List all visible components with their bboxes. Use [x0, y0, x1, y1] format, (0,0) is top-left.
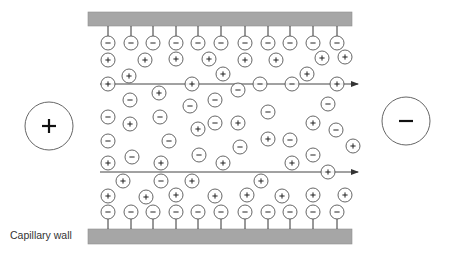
negative-ion: [183, 99, 197, 113]
positive-ion: [101, 156, 115, 170]
negative-ion: [146, 36, 160, 50]
negative-ion: [124, 205, 138, 219]
positive-ion: [306, 116, 320, 130]
negative-ion: [306, 205, 320, 219]
negative-ion: [283, 133, 297, 147]
negative-ion: [253, 77, 267, 91]
negative-ion: [261, 105, 275, 119]
negative-ion: [238, 205, 252, 219]
positive-ion: [306, 188, 320, 202]
positive-ion: [238, 53, 252, 67]
negative-ion: [306, 36, 320, 50]
positive-ion: [169, 52, 183, 66]
positive-ion: [139, 190, 153, 204]
positive-ion: [338, 50, 352, 64]
negative-ion: [214, 36, 228, 50]
negative-ion: [330, 205, 344, 219]
positive-ion: [191, 122, 205, 136]
positive-ion: [185, 77, 199, 91]
top-wall: [88, 12, 352, 26]
positive-ion: [101, 189, 115, 203]
negative-ion: [208, 116, 222, 130]
negative-ion: [238, 36, 252, 50]
negative-ion: [146, 205, 160, 219]
positive-ion: [321, 165, 335, 179]
positive-ion: [275, 189, 289, 203]
negative-ion: [154, 174, 168, 188]
negative-ion: [306, 148, 320, 162]
positive-ion: [152, 86, 166, 100]
negative-ion: [283, 36, 297, 50]
cathode-negative-electrode: [382, 97, 430, 145]
capillary-wall-label: Capillary wall: [10, 229, 72, 241]
negative-ion: [233, 140, 247, 154]
negative-ion: [285, 77, 299, 91]
positive-ion: [315, 51, 329, 65]
negative-ion: [321, 97, 335, 111]
negative-ion: [191, 205, 205, 219]
negative-ion: [191, 36, 205, 50]
negative-ion: [101, 134, 115, 148]
negative-ion: [125, 150, 139, 164]
negative-ion: [153, 110, 167, 124]
positive-ion: [101, 77, 115, 91]
positive-ion: [216, 156, 230, 170]
negative-ion: [169, 36, 183, 50]
positive-ion: [216, 67, 230, 81]
positive-ion: [169, 188, 183, 202]
negative-ion: [283, 205, 297, 219]
positive-ion: [122, 69, 136, 83]
positive-ion: [202, 52, 216, 66]
electrodes: [25, 97, 430, 150]
negative-ion: [261, 36, 275, 50]
negative-ion: [101, 110, 115, 124]
positive-ion: [208, 189, 222, 203]
negative-ion: [214, 205, 228, 219]
negative-ion: [231, 83, 245, 97]
negative-ion: [101, 36, 115, 50]
positive-ion: [285, 156, 299, 170]
negative-ion: [261, 205, 275, 219]
electroosmosis-diagram: [0, 0, 452, 259]
negative-ion: [208, 93, 222, 107]
positive-ion: [185, 174, 199, 188]
positive-ion: [138, 53, 152, 67]
negative-ion: [124, 36, 138, 50]
negative-ion: [329, 123, 343, 137]
negative-ion: [123, 93, 137, 107]
negative-ion: [162, 134, 176, 148]
anode-positive-electrode: [25, 102, 73, 150]
positive-ion: [254, 174, 268, 188]
positive-ion: [240, 188, 254, 202]
negative-ion: [101, 205, 115, 219]
positive-ion: [261, 132, 275, 146]
positive-ion: [330, 77, 344, 91]
bottom-wall: [88, 229, 352, 244]
positive-ion: [338, 188, 352, 202]
positive-ion: [231, 116, 245, 130]
negative-ion: [330, 36, 344, 50]
positive-ion: [269, 53, 283, 67]
positive-ion: [346, 139, 360, 153]
negative-ion: [192, 148, 206, 162]
positive-ion: [101, 53, 115, 67]
positive-ion: [154, 156, 168, 170]
ions: [101, 36, 360, 219]
positive-ion: [300, 67, 314, 81]
positive-ion: [123, 117, 137, 131]
negative-ion: [169, 205, 183, 219]
positive-ion: [116, 174, 130, 188]
